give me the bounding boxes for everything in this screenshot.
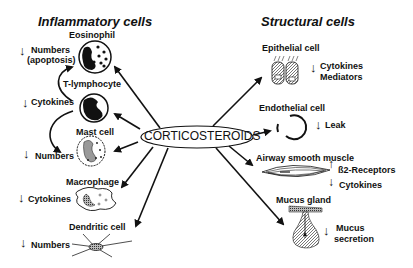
- epithelial-cell-icon: [272, 56, 298, 84]
- t-lymphocyte-icon: [80, 94, 108, 122]
- mast-cell-down-arrow: ↓: [23, 148, 30, 159]
- dendritic-cell-icon: [72, 234, 132, 257]
- endothelial-cell-icon: [277, 115, 306, 139]
- eosinophil-label: Eosinophil: [69, 30, 115, 40]
- endothelial-down-arrow: ↓: [315, 119, 322, 130]
- airway-smooth-muscle-icon: [262, 165, 330, 176]
- airway-effect-line1: ß2-Receptors: [338, 165, 396, 176]
- mucus-gland-icon: [289, 206, 322, 248]
- eosinophil-effect-line2: (apoptosis): [27, 55, 76, 66]
- dendritic-cell-effect: Numbers: [31, 240, 70, 251]
- corticosteroid-diagram: Inflammatory cells Structural cells CORT…: [0, 0, 413, 268]
- dendritic-cell-down-arrow: ↓: [20, 237, 27, 248]
- mast-cell-icon: [77, 136, 105, 166]
- endothelial-effect: Leak: [325, 120, 346, 131]
- airway-down-arrow: ↓: [328, 177, 334, 188]
- mucus-gland-label: Mucus gland: [276, 195, 331, 205]
- macrophage-label: Macrophage: [66, 177, 119, 187]
- mucus-down-arrow: ↓: [323, 225, 330, 236]
- macrophage-icon: [76, 187, 116, 210]
- eosinophil-icon: [79, 41, 111, 73]
- macrophage-effect: Cytokines: [28, 194, 71, 205]
- airway-smooth-muscle-label: Airway smooth muscle: [256, 153, 354, 163]
- t-lymphocyte-effect: Cytokines: [31, 97, 74, 108]
- airway-up-arrow: ↑: [328, 159, 334, 170]
- mucus-effect-line1: Mucus: [336, 223, 365, 234]
- endothelial-cell-label: Endothelial cell: [259, 103, 325, 113]
- mucus-effect-line2: secretion: [334, 234, 374, 245]
- t-lymphocyte-down-arrow: ↓: [22, 97, 29, 108]
- dendritic-cell-label: Dendritic cell: [69, 222, 126, 232]
- epithelial-effect-line2: Mediators: [320, 72, 363, 83]
- epithelial-down-arrow: ↓: [310, 62, 317, 73]
- eosinophil-down-arrow: ↓: [19, 45, 26, 56]
- corticosteroids-label: CORTICOSTEROIDS: [144, 129, 250, 143]
- airway-effect-line2: Cytokines: [339, 180, 382, 191]
- epithelial-effect-line1: Cytokines: [320, 61, 363, 72]
- mast-cell-label: Mast cell: [76, 127, 114, 137]
- t-lymphocyte-label: T-lymphocyte: [63, 79, 121, 89]
- arrows-structural: [213, 78, 283, 224]
- epithelial-cell-label: Epithelial cell: [262, 43, 320, 53]
- structural-cells-heading: Structural cells: [261, 14, 355, 29]
- inflammatory-cells-heading: Inflammatory cells: [38, 14, 152, 29]
- macrophage-down-arrow: ↓: [18, 192, 25, 203]
- mast-cell-effect: Numbers: [35, 151, 74, 162]
